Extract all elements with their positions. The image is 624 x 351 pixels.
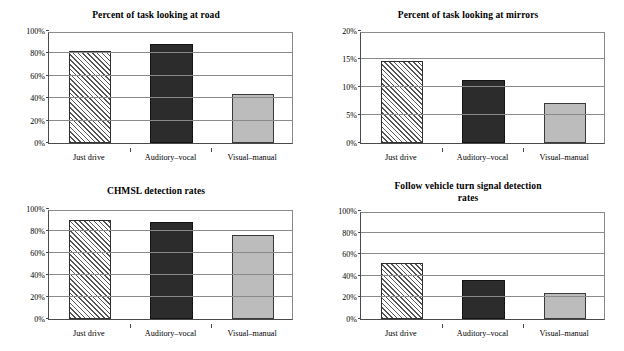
plot-wrap: 0%20%40%60%80%100% Just driveAuditory–vo… [0, 0, 312, 176]
x-tick-label: Auditory–vocal [457, 329, 508, 338]
x-tick-mark [442, 324, 443, 328]
bar-auditory-vocal [150, 222, 192, 319]
gridline [49, 230, 292, 231]
y-tick-label: 40% [342, 271, 357, 280]
gridline [361, 86, 604, 87]
gridline [361, 58, 604, 59]
plot-area: 0%5%10%15%20% [360, 32, 605, 144]
gridline [361, 114, 604, 115]
y-tick-mark [358, 275, 362, 276]
bar-just-drive [381, 61, 423, 143]
x-tick-label: Visual–manual [228, 329, 277, 338]
plot-area: 0%20%40%60%80%100% [48, 210, 293, 320]
gridline [361, 232, 604, 233]
figure-bar-chart-grid: Percent of task looking at road 0%20%40%… [0, 0, 624, 351]
y-tick-label: 20% [30, 116, 45, 125]
y-tick-mark [358, 296, 362, 297]
x-tick-label: Auditory–vocal [145, 153, 196, 162]
y-tick-label: 80% [30, 227, 45, 236]
x-axis-labels: Just driveAuditory–vocalVisual–manual [48, 148, 293, 162]
bars-container [49, 33, 292, 143]
x-axis-labels: Just driveAuditory–vocalVisual–manual [360, 148, 605, 162]
y-tick-mark [46, 296, 50, 297]
gridline [361, 275, 604, 276]
bar-auditory-vocal [462, 80, 504, 143]
y-tick-mark [358, 30, 362, 31]
y-tick-label: 20% [342, 293, 357, 302]
y-tick-label: 5% [346, 111, 357, 120]
x-tick-label: Auditory–vocal [145, 329, 196, 338]
plot-wrap: 0%20%40%60%80%100% Just driveAuditory–vo… [312, 176, 624, 351]
y-tick-label: 60% [342, 250, 357, 259]
y-tick-mark [358, 114, 362, 115]
x-tick-label: Just drive [73, 153, 105, 162]
plot-area: 0%20%40%60%80%100% [360, 212, 605, 320]
y-tick-mark [46, 52, 50, 53]
y-tick-mark [46, 142, 50, 143]
x-tick-mark [211, 148, 212, 152]
bar-visual-manual [232, 94, 274, 143]
y-tick-label: 100% [26, 27, 45, 36]
y-tick-mark [358, 58, 362, 59]
gridline [361, 296, 604, 297]
chart-panel-percent-task-looking-at-road: Percent of task looking at road 0%20%40%… [0, 0, 312, 176]
y-tick-mark [46, 318, 50, 319]
y-tick-mark [358, 253, 362, 254]
y-tick-label: 60% [30, 249, 45, 258]
gridline [49, 274, 292, 275]
x-tick-mark [130, 148, 131, 152]
x-tick-mark [523, 148, 524, 152]
y-tick-label: 100% [338, 207, 357, 216]
bar-just-drive [69, 220, 111, 319]
y-tick-label: 20% [30, 293, 45, 302]
chart-panel-follow-vehicle-turn-signal-detection-rates: Follow vehicle turn signal detection rat… [312, 176, 624, 351]
y-tick-label: 40% [30, 271, 45, 280]
y-tick-label: 15% [342, 55, 357, 64]
y-tick-label: 0% [34, 315, 45, 324]
y-tick-mark [46, 252, 50, 253]
bars-container [49, 211, 292, 319]
x-tick-label: Visual–manual [228, 153, 277, 162]
x-tick-label: Auditory–vocal [457, 153, 508, 162]
gridline [49, 296, 292, 297]
y-tick-mark [46, 75, 50, 76]
y-tick-label: 40% [30, 94, 45, 103]
chart-panel-percent-task-looking-at-mirrors: Percent of task looking at mirrors 0%5%1… [312, 0, 624, 176]
bar-visual-manual [232, 235, 274, 319]
gridline [49, 75, 292, 76]
y-tick-mark [358, 142, 362, 143]
y-tick-label: 0% [346, 315, 357, 324]
bar-just-drive [381, 263, 423, 319]
y-tick-mark [358, 210, 362, 211]
chart-panel-chmsl-detection-rates: CHMSL detection rates 0%20%40%60%80%100%… [0, 176, 312, 351]
y-tick-label: 80% [30, 49, 45, 58]
x-tick-label: Just drive [73, 329, 105, 338]
x-tick-mark [442, 148, 443, 152]
y-tick-label: 0% [346, 139, 357, 148]
y-tick-mark [46, 208, 50, 209]
gridline [361, 253, 604, 254]
bars-container [361, 213, 604, 319]
plot-area: 0%20%40%60%80%100% [48, 32, 293, 144]
y-tick-label: 20% [342, 27, 357, 36]
gridline [49, 252, 292, 253]
x-tick-mark [523, 324, 524, 328]
y-tick-mark [46, 274, 50, 275]
y-tick-mark [358, 232, 362, 233]
x-tick-mark [130, 324, 131, 328]
y-tick-label: 10% [342, 83, 357, 92]
plot-wrap: 0%20%40%60%80%100% Just driveAuditory–vo… [0, 176, 312, 351]
bar-visual-manual [544, 103, 586, 143]
bars-container [361, 33, 604, 143]
y-tick-label: 60% [30, 71, 45, 80]
plot-wrap: 0%5%10%15%20% Just driveAuditory–vocalVi… [312, 0, 624, 176]
y-tick-mark [46, 97, 50, 98]
bar-auditory-vocal [150, 44, 192, 143]
y-tick-label: 0% [34, 139, 45, 148]
y-tick-mark [358, 86, 362, 87]
y-tick-mark [46, 30, 50, 31]
bar-auditory-vocal [462, 280, 504, 319]
y-tick-mark [46, 120, 50, 121]
x-axis-labels: Just driveAuditory–vocalVisual–manual [48, 324, 293, 338]
x-tick-label: Just drive [385, 153, 417, 162]
